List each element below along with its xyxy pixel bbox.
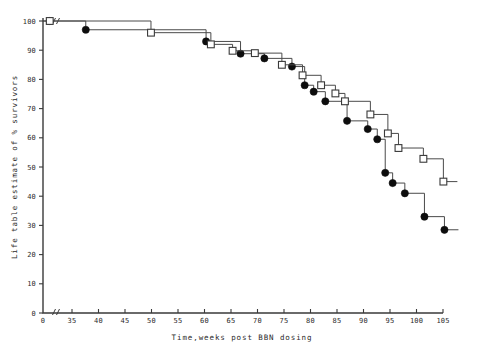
- y-tick-label: 20: [27, 251, 36, 259]
- data-point-circle: [82, 26, 89, 33]
- data-point-square: [318, 82, 325, 89]
- y-tick-group: 0102030405060708090100: [23, 18, 43, 318]
- axis-break-group: [53, 18, 60, 315]
- x-tick-label: 85: [333, 317, 342, 325]
- y-tick-label: 40: [27, 193, 36, 201]
- x-tick-label: 70: [253, 317, 262, 325]
- data-point-circle: [389, 179, 396, 186]
- data-point-square: [440, 178, 447, 185]
- x-tick-label: 35: [68, 317, 77, 325]
- data-point-square: [332, 90, 339, 97]
- x-tick-label: 75: [280, 317, 289, 325]
- data-point-circle: [421, 213, 428, 220]
- data-point-circle: [374, 136, 381, 143]
- x-origin-label: 0: [41, 317, 45, 325]
- step-line: [50, 21, 458, 182]
- y-tick-label: 80: [27, 76, 36, 84]
- y-tick-label: 60: [27, 134, 36, 142]
- data-point-circle: [261, 55, 268, 62]
- series-open-square-group: [46, 18, 457, 185]
- data-point-square: [46, 18, 53, 25]
- y-tick-label: 30: [27, 222, 36, 230]
- y-tick-label: 70: [27, 105, 36, 113]
- x-tick-label: 45: [121, 317, 130, 325]
- x-axis-break-bottom: [53, 309, 60, 315]
- data-point-square: [207, 41, 214, 48]
- data-point-circle: [364, 125, 371, 132]
- data-point-square: [395, 145, 402, 152]
- y-tick-label: 90: [27, 47, 36, 55]
- data-point-circle: [288, 63, 295, 70]
- x-tick-label: 90: [359, 317, 368, 325]
- y-tick-label: 100: [23, 18, 36, 26]
- x-axis-title: Time,weeks post BBN dosing: [172, 333, 313, 342]
- x-tick-label: 65: [227, 317, 236, 325]
- data-point-square: [367, 111, 374, 118]
- data-point-circle: [310, 88, 317, 95]
- data-point-circle: [382, 169, 389, 176]
- x-tick-label: 60: [200, 317, 209, 325]
- x-tick-label: 80: [306, 317, 315, 325]
- x-tick-label: 40: [94, 317, 103, 325]
- data-point-circle: [301, 82, 308, 89]
- x-tick-label: 95: [386, 317, 395, 325]
- x-tick-label: 100: [410, 317, 423, 325]
- y-tick-label: 50: [27, 164, 36, 172]
- survival-chart: 035404550556065707580859095100105 010203…: [0, 0, 484, 353]
- data-point-circle: [401, 190, 408, 197]
- y-tick-label: 10: [27, 280, 36, 288]
- data-point-square: [148, 29, 155, 36]
- data-point-square: [251, 50, 258, 57]
- axis-lines: [43, 18, 443, 313]
- y-axis-title: Life table estimate of % survivors: [10, 75, 19, 259]
- data-point-circle: [343, 117, 350, 124]
- x-tick-label: 105: [436, 317, 449, 325]
- data-point-square: [384, 130, 391, 137]
- data-point-circle: [441, 226, 448, 233]
- data-point-square: [278, 61, 285, 68]
- x-tick-group: 035404550556065707580859095100105: [41, 309, 450, 325]
- data-point-square: [342, 98, 349, 105]
- x-tick-label: 50: [147, 317, 156, 325]
- data-point-square: [229, 47, 236, 54]
- data-point-square: [299, 72, 306, 79]
- axes-group: [43, 18, 443, 313]
- series-layer: [46, 17, 458, 233]
- y-tick-label: 0: [32, 310, 36, 318]
- x-tick-label: 55: [174, 317, 183, 325]
- data-point-square: [420, 155, 427, 162]
- chart-canvas: 035404550556065707580859095100105 010203…: [0, 0, 484, 353]
- data-point-circle: [322, 98, 329, 105]
